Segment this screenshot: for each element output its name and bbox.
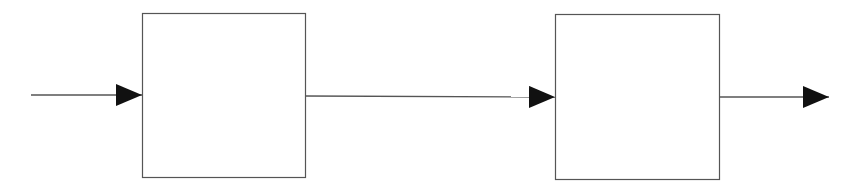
link-arrow <box>305 96 555 97</box>
block-1 <box>143 14 306 178</box>
block-2 <box>556 15 720 180</box>
block-diagram <box>0 0 861 188</box>
